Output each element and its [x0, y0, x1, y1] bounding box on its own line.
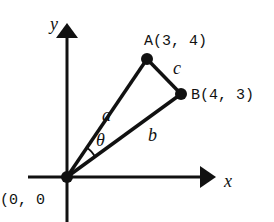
origin-label: (0, 0	[0, 192, 45, 209]
x-axis-label: x	[223, 171, 232, 191]
vector-diagram: y x A(3, 4) B(4, 3) (0, 0 a b c θ	[0, 0, 274, 222]
angle-arc	[87, 148, 95, 157]
y-axis-label: y	[48, 14, 58, 34]
segment-c-label: c	[173, 58, 181, 78]
segment-a-label: a	[102, 105, 111, 125]
origin-point	[61, 171, 73, 183]
segment-b-label: b	[148, 125, 157, 145]
point-b	[175, 88, 187, 100]
y-axis-arrow-icon	[56, 23, 78, 38]
point-b-label: B(4, 3)	[191, 87, 254, 104]
point-a-label: A(3, 4)	[144, 33, 207, 50]
point-a	[141, 53, 153, 65]
segment-b	[67, 94, 181, 177]
x-axis-arrow-icon	[200, 166, 216, 188]
angle-theta-label: θ	[96, 130, 105, 150]
